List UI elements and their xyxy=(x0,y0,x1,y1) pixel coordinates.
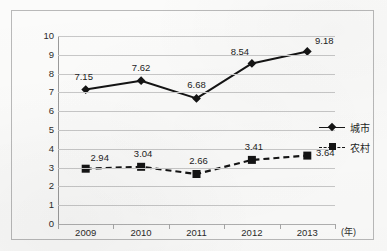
data-point-marker xyxy=(137,163,145,171)
gridline xyxy=(58,111,335,112)
data-label: 9.18 xyxy=(315,37,334,47)
x-axis-tick-labels: 20092010201120122013 xyxy=(58,228,335,242)
x-tick-label: 2010 xyxy=(131,228,152,238)
legend-key-dashed-square-icon xyxy=(319,142,345,153)
gridline xyxy=(58,74,335,75)
data-label: 3.04 xyxy=(134,149,153,159)
x-tick-label: 2012 xyxy=(241,228,262,238)
y-tick-label: 1 xyxy=(24,200,54,210)
data-label: 2.66 xyxy=(189,156,208,166)
x-axis-unit-label: (年) xyxy=(341,228,356,237)
legend-item-urban: 城市 xyxy=(319,117,381,137)
gridline xyxy=(58,149,335,150)
legend-label-rural: 农村 xyxy=(350,140,370,155)
y-tick-label: 9 xyxy=(24,50,54,60)
data-label: 7.62 xyxy=(132,63,151,73)
y-axis-tick-labels: 012345678910 xyxy=(20,36,54,224)
y-tick-label: 3 xyxy=(24,163,54,173)
legend-key-solid-diamond-icon xyxy=(319,122,345,133)
plot-area: 7.157.626.688.549.182.943.042.663.413.64 xyxy=(58,36,335,224)
x-axis-line xyxy=(58,224,335,225)
data-label: 6.68 xyxy=(187,81,206,91)
data-label: 2.94 xyxy=(90,153,109,163)
x-axis-tick xyxy=(335,224,336,229)
y-tick-label: 2 xyxy=(24,181,54,191)
data-point-marker xyxy=(248,156,256,164)
y-tick-label: 10 xyxy=(24,31,54,41)
y-tick-label: 4 xyxy=(24,144,54,154)
chart-screenshot: 012345678910 7.157.626.688.549.182.943.0… xyxy=(0,0,387,251)
legend-item-rural: 农村 xyxy=(319,137,381,157)
chart-frame: 012345678910 7.157.626.688.549.182.943.0… xyxy=(11,10,374,240)
gridline xyxy=(58,186,335,187)
data-point-marker xyxy=(137,76,146,85)
data-point-marker xyxy=(303,152,311,160)
x-tick-label: 2011 xyxy=(186,228,206,238)
gridline xyxy=(58,130,335,131)
gridline xyxy=(58,55,335,56)
x-tick-label: 2013 xyxy=(297,228,318,238)
legend-label-urban: 城市 xyxy=(350,120,370,135)
y-tick-label: 5 xyxy=(24,125,54,135)
data-point-marker xyxy=(193,170,201,178)
data-label: 3.41 xyxy=(245,142,264,152)
y-tick-label: 7 xyxy=(24,87,54,97)
x-tick-label: 2009 xyxy=(75,228,96,238)
chart-legend: 城市 农村 xyxy=(319,117,381,157)
data-label: 7.15 xyxy=(74,72,93,82)
gridline xyxy=(58,205,335,206)
y-tick-label: 6 xyxy=(24,106,54,116)
y-tick-label: 8 xyxy=(24,69,54,79)
gridline xyxy=(58,36,335,37)
gridline xyxy=(58,168,335,169)
data-label: 8.54 xyxy=(231,48,250,58)
y-tick-label: 0 xyxy=(24,219,54,229)
gridline xyxy=(58,92,335,93)
